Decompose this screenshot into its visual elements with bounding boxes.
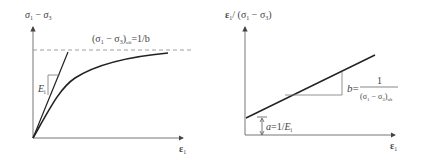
right-plot: ε1/ (σ1 − σ3) b= 1 (σ1 − σ3)ult a=1/Ei ε… <box>225 9 398 152</box>
left-y-axis-label: σ1 − σ3 <box>25 9 52 21</box>
slope-label-numerator: 1 <box>377 75 382 86</box>
asymptote-label: (σ1 − σ3)ult=1/b <box>92 33 150 45</box>
initial-tangent-line <box>33 52 68 138</box>
left-plot: σ1 − σ3 (σ1 − σ3)ult=1/b Ei ε1 <box>25 9 192 155</box>
left-x-axis-label: ε1 <box>179 143 186 155</box>
slope-label-denominator: (σ1 − σ3)ult <box>360 92 393 102</box>
slope-label-lhs: b= <box>347 82 359 94</box>
intercept-label: a=1/Ei <box>266 121 293 133</box>
right-x-axis-label: ε1 <box>390 140 397 152</box>
hyperbolic-model-diagram: σ1 − σ3 (σ1 − σ3)ult=1/b Ei ε1 ε1/ (σ1 −… <box>0 0 421 159</box>
right-y-axis-label: ε1/ (σ1 − σ3) <box>225 9 272 21</box>
stress-strain-curve <box>33 53 168 138</box>
initial-modulus-label: Ei <box>37 83 46 95</box>
